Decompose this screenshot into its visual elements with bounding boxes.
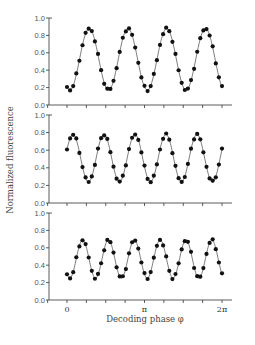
data-point (155, 162, 159, 166)
data-point (118, 179, 122, 183)
data-point (195, 50, 199, 54)
fit-curve (67, 134, 222, 181)
data-point (127, 26, 131, 30)
data-point (142, 271, 146, 275)
data-point (84, 175, 88, 179)
y-tick-label: 0.0 (35, 101, 45, 110)
data-point (161, 32, 165, 36)
data-point (158, 147, 162, 151)
data-point (93, 163, 97, 167)
data-point (90, 29, 94, 33)
data-point (152, 72, 156, 76)
data-point (164, 26, 168, 30)
data-point (192, 266, 196, 270)
data-point (161, 137, 165, 141)
data-point (177, 68, 181, 72)
data-point (111, 79, 115, 83)
data-point (80, 165, 84, 169)
data-point (111, 250, 115, 254)
data-point (146, 89, 150, 93)
data-point (90, 174, 94, 178)
data-point (177, 261, 181, 265)
y-tick-label: 0.4 (35, 66, 45, 75)
data-point (192, 67, 196, 71)
data-point (130, 136, 134, 140)
data-point (198, 275, 202, 279)
x-axis-title: Decoding phase φ (106, 314, 184, 324)
data-point (155, 58, 159, 62)
panel-middle: 0.00.20.40.60.81.0 (35, 111, 232, 208)
data-point (170, 151, 174, 155)
data-point (211, 237, 215, 241)
y-tick-label: 0.4 (35, 261, 45, 270)
data-point (164, 254, 168, 258)
data-point (124, 267, 128, 271)
y-tick-label: 1.0 (35, 14, 45, 23)
data-point (80, 238, 84, 242)
x-tick-label: 2π (217, 305, 227, 314)
data-point (102, 82, 106, 86)
data-point (180, 81, 184, 85)
data-point (139, 150, 143, 154)
data-point (149, 84, 153, 88)
data-point (189, 78, 193, 82)
y-tick-label: 0.6 (35, 48, 45, 57)
y-tick-label: 0.0 (35, 296, 45, 305)
data-point (158, 43, 162, 47)
data-point (118, 50, 122, 54)
data-point (124, 29, 128, 33)
data-point (108, 87, 112, 91)
data-point (220, 271, 224, 275)
data-point (121, 274, 125, 278)
data-point (96, 52, 100, 56)
data-point (90, 269, 94, 273)
data-point (183, 175, 187, 179)
data-point (214, 247, 218, 251)
data-point (177, 176, 181, 180)
data-point (71, 270, 75, 274)
y-tick-label: 1.0 (35, 111, 45, 120)
data-point (198, 137, 202, 141)
data-point (99, 68, 103, 72)
data-point (142, 84, 146, 88)
data-point (139, 260, 143, 264)
data-point (211, 179, 215, 183)
data-point (186, 162, 190, 166)
data-point (195, 132, 199, 136)
data-point (136, 61, 140, 65)
data-point (124, 163, 128, 167)
data-point (127, 251, 131, 255)
data-point (84, 31, 88, 35)
data-point (105, 137, 109, 141)
data-point (173, 52, 177, 56)
data-point (192, 137, 196, 141)
data-point (74, 136, 78, 140)
y-tick-label: 0.2 (35, 181, 45, 190)
data-point (133, 45, 137, 49)
data-point (115, 177, 119, 181)
data-point (186, 240, 190, 244)
data-point (102, 248, 106, 252)
data-point (158, 238, 162, 242)
panel-top: 0.00.20.40.60.81.0 (35, 14, 232, 110)
y-tick-label: 0.8 (35, 226, 45, 235)
y-tick-label: 0.0 (35, 199, 45, 208)
data-point (84, 242, 88, 246)
data-point (208, 33, 212, 37)
data-point (133, 132, 137, 136)
data-point (204, 27, 208, 31)
data-point (189, 250, 193, 254)
data-point (201, 150, 205, 154)
data-point (77, 59, 81, 63)
data-point (164, 131, 168, 135)
data-point (77, 151, 81, 155)
data-point (152, 174, 156, 178)
y-tick-label: 0.8 (35, 31, 45, 40)
data-point (121, 174, 125, 178)
data-point (217, 162, 221, 166)
data-point (74, 71, 78, 75)
y-tick-label: 0.2 (35, 278, 45, 287)
figure: 0.00.20.40.60.81.00.00.20.40.60.81.00.00… (0, 0, 255, 345)
data-point (204, 165, 208, 169)
data-point (93, 277, 97, 281)
